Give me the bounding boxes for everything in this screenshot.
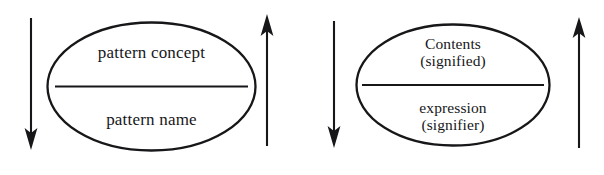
left-down-arrow-icon xyxy=(17,0,47,175)
signifier-label: (signifier) xyxy=(421,117,484,134)
sign-unit: Contents (signified) expression (signifi… xyxy=(302,0,604,175)
pattern-concept-compartment: pattern concept xyxy=(46,21,257,87)
right-up-arrow-icon xyxy=(253,0,283,175)
contents-label: Contents xyxy=(425,36,481,53)
sign-model-diagram: pattern concept pattern name xyxy=(0,0,604,175)
pattern-concept-label: pattern concept xyxy=(98,44,205,62)
signified-label: (signified) xyxy=(420,53,486,70)
pattern-name-label: pattern name xyxy=(106,111,197,129)
sign-ellipse: Contents (signified) expression (signifi… xyxy=(355,23,551,147)
pattern-unit: pattern concept pattern name xyxy=(0,0,302,175)
expression-label: expression xyxy=(419,100,486,117)
pattern-ellipse: pattern concept pattern name xyxy=(46,21,257,152)
pattern-ellipse-text: pattern concept pattern name xyxy=(46,21,257,152)
pattern-name-compartment: pattern name xyxy=(46,87,257,153)
left-down-arrow-icon xyxy=(320,0,350,175)
expression-compartment: expression (signifier) xyxy=(355,85,551,147)
sign-ellipse-text: Contents (signified) expression (signifi… xyxy=(355,23,551,147)
right-up-arrow-icon xyxy=(565,0,595,175)
contents-compartment: Contents (signified) xyxy=(355,23,551,85)
